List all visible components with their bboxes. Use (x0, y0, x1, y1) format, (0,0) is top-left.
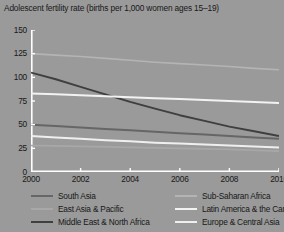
legend-item-label: South Asia (58, 192, 96, 201)
x-axis-tick-label: 2002 (64, 175, 98, 183)
legend-item-label: Sub-Saharan Africa (202, 192, 270, 201)
legend-item-label: Latin America & the Caribbean (202, 205, 284, 214)
x-axis-tick-label: 2006 (163, 175, 197, 183)
series-line-2 (31, 93, 279, 102)
legend-item[interactable]: Sub-Saharan Africa (175, 190, 270, 202)
series-line-0 (31, 54, 279, 70)
legend-swatch-icon (31, 208, 53, 210)
legend-swatch-icon (31, 221, 53, 223)
legend-item-label: Europe & Central Asia (202, 218, 279, 227)
plot-area (31, 30, 279, 172)
chart-figure: Adolescent fertility rate (births per 1,… (0, 0, 284, 232)
series-layer (31, 54, 279, 152)
y-axis-tick-label: 50 (1, 120, 27, 128)
series-line-3 (31, 125, 279, 139)
legend-item[interactable]: Latin America & the Caribbean (175, 203, 284, 215)
x-axis-tick-label: 2004 (113, 175, 147, 183)
x-axis-tick-label: 2000 (14, 175, 48, 183)
page-title: Adolescent fertility rate (births per 1,… (4, 3, 219, 13)
legend-item[interactable]: East Asia & Pacific (31, 203, 123, 215)
legend-item-label: East Asia & Pacific (58, 205, 123, 214)
legend-item[interactable]: South Asia (31, 190, 96, 202)
x-axis-tick-label: 2010 (262, 175, 284, 183)
legend-swatch-icon (175, 195, 197, 197)
y-axis-tick-label: 100 (1, 73, 27, 81)
legend-swatch-icon (175, 208, 197, 210)
y-axis-tick-label: 25 (1, 144, 27, 152)
legend-swatch-icon (175, 221, 197, 223)
x-axis-tick-label: 2008 (212, 175, 246, 183)
legend-item[interactable]: Middle East & North Africa (31, 216, 150, 228)
line-chart-svg (31, 30, 279, 172)
legend-item[interactable]: Europe & Central Asia (175, 216, 279, 228)
legend-item-label: Middle East & North Africa (58, 218, 150, 227)
y-axis-tick-label: 150 (1, 26, 27, 34)
legend-swatch-icon (31, 195, 53, 197)
y-axis-tick-label: 75 (1, 97, 27, 105)
y-axis-tick-label: 125 (1, 49, 27, 57)
chart-legend: South AsiaSub-Saharan AfricaEast Asia & … (0, 190, 284, 232)
